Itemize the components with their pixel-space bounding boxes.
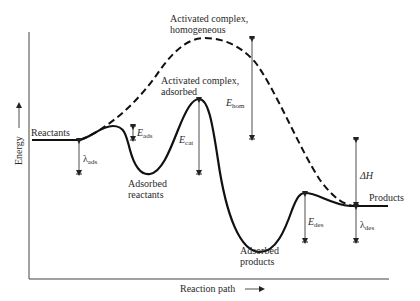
lambda-ads-dimension: λads <box>76 141 97 174</box>
energy-diagram: Energy Reaction path λads Eads Ecat <box>0 0 420 301</box>
reactants-label: Reactants <box>31 127 70 138</box>
e-ads-dimension: Eads <box>130 126 153 140</box>
adsorbed-products-label-line1: Adsorbed <box>240 245 279 256</box>
lambda-ads-label: λads <box>83 153 97 166</box>
e-ads-label: Eads <box>136 127 153 140</box>
catalyzed-path-curve <box>32 99 388 252</box>
e-hom-label: Ehom <box>225 97 245 110</box>
activated-complex-adsorbed-line2: adsorbed <box>161 86 197 97</box>
adsorbed-reactants-label-line2: reactants <box>128 189 164 200</box>
homogeneous-path-curve <box>80 38 355 206</box>
activated-complex-homogeneous-line1: Activated complex, <box>170 13 248 24</box>
e-cat-label: Ecat <box>178 134 193 147</box>
y-axis-label: Energy <box>13 136 24 165</box>
lambda-des-label: λdes <box>360 219 374 232</box>
adsorbed-reactants-label-line1: Adsorbed <box>128 178 167 189</box>
products-label: Products <box>369 192 404 203</box>
e-des-dimension: Edes <box>302 194 324 242</box>
x-axis-label-group: Reaction path <box>180 283 262 294</box>
delta-h-label: ΔH <box>359 170 374 181</box>
adsorbed-products-label-line2: products <box>240 256 275 267</box>
x-axis-label: Reaction path <box>180 283 235 294</box>
lambda-des-dimension: λdes <box>353 207 374 242</box>
y-axis-label-group: Energy <box>13 105 24 165</box>
activated-complex-homogeneous-line2: homogeneous <box>170 24 226 35</box>
e-hom-dimension: Ehom <box>225 38 255 139</box>
activated-complex-adsorbed-line1: Activated complex, <box>161 75 239 86</box>
e-cat-dimension: Ecat <box>178 100 202 174</box>
e-des-label: Edes <box>307 216 324 229</box>
